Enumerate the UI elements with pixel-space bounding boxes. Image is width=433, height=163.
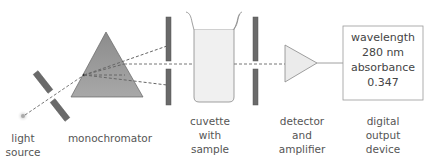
prism-icon xyxy=(71,32,143,97)
label-line: output xyxy=(350,128,416,142)
cuvette-icon xyxy=(186,12,242,102)
entrance-slit xyxy=(33,71,70,122)
light-source-icon xyxy=(17,110,29,122)
label-line: sample xyxy=(180,142,240,156)
sample-slit xyxy=(253,17,258,105)
label-line: source xyxy=(0,145,46,159)
light-source-label: light source xyxy=(0,131,46,159)
label-line: amplifier xyxy=(272,142,332,156)
detector-label: detector and amplifier xyxy=(272,114,332,156)
label-line: digital xyxy=(350,114,416,128)
output-display: wavelength 280 nm absorbance 0.347 xyxy=(343,30,423,90)
output-device-label: digital output device xyxy=(350,114,416,156)
display-line-4: 0.347 xyxy=(343,75,423,90)
label-line: light xyxy=(0,131,46,145)
label-line: and xyxy=(272,128,332,142)
display-line-3: absorbance xyxy=(343,60,423,75)
monochromator-label: monochromator xyxy=(60,131,160,145)
exit-slit xyxy=(166,17,171,105)
amplifier-icon xyxy=(285,45,317,82)
display-line-1: wavelength xyxy=(343,30,423,45)
label-line: detector xyxy=(272,114,332,128)
display-line-2: 280 nm xyxy=(343,45,423,60)
label-line: monochromator xyxy=(60,131,160,145)
label-line: device xyxy=(350,142,416,156)
label-line: cuvette xyxy=(180,114,240,128)
label-line: with xyxy=(180,128,240,142)
cuvette-label: cuvette with sample xyxy=(180,114,240,156)
